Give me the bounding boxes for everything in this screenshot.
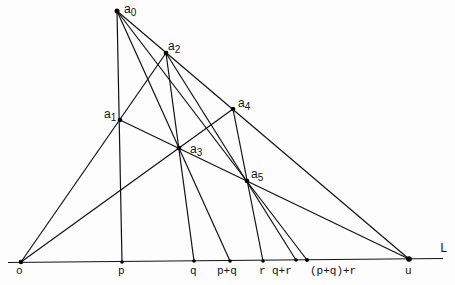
segment-a0-pqr bbox=[117, 11, 307, 260]
label-p-plus-q: p+q bbox=[217, 266, 237, 277]
label-o: o bbox=[16, 266, 23, 277]
point-o bbox=[19, 260, 24, 265]
point-pq bbox=[228, 259, 232, 263]
point-a1 bbox=[118, 118, 123, 123]
line-L bbox=[8, 259, 443, 263]
point-a0 bbox=[115, 9, 120, 14]
label-a0: a0 bbox=[124, 3, 136, 18]
label-p-plus-q-plus-r: (p+q)+r bbox=[310, 266, 356, 277]
segment-a0-u bbox=[117, 11, 409, 259]
point-a4 bbox=[231, 107, 236, 112]
label-a3: a3 bbox=[190, 143, 202, 158]
point-qr bbox=[294, 258, 298, 262]
point-p bbox=[120, 260, 124, 264]
segment-a0-p bbox=[117, 11, 122, 262]
label-p: p bbox=[118, 266, 125, 277]
label-q: q bbox=[190, 266, 197, 277]
segment-a1-u bbox=[120, 120, 409, 259]
label-a5: a5 bbox=[251, 168, 263, 183]
diagram-canvas: a0 a1 a2 a3 a4 a5 o p q p+q r q+r (p+q)+… bbox=[0, 0, 455, 285]
label-u: u bbox=[405, 266, 412, 277]
label-a2: a2 bbox=[168, 40, 180, 55]
construction-lines bbox=[0, 0, 455, 285]
point-pqr bbox=[305, 258, 309, 262]
label-r: r bbox=[259, 266, 266, 277]
segment-o-a2 bbox=[21, 53, 166, 262]
label-line-L: L bbox=[440, 243, 447, 255]
label-a4: a4 bbox=[238, 97, 250, 112]
point-u bbox=[406, 256, 412, 262]
label-a1: a1 bbox=[104, 108, 116, 123]
point-q bbox=[192, 259, 196, 263]
point-a3 bbox=[177, 146, 182, 151]
point-r bbox=[261, 259, 265, 263]
point-a5 bbox=[245, 179, 250, 184]
segment-o-a4 bbox=[21, 109, 233, 262]
segment-a2-qr bbox=[166, 53, 296, 260]
label-q-plus-r: q+r bbox=[272, 266, 292, 277]
